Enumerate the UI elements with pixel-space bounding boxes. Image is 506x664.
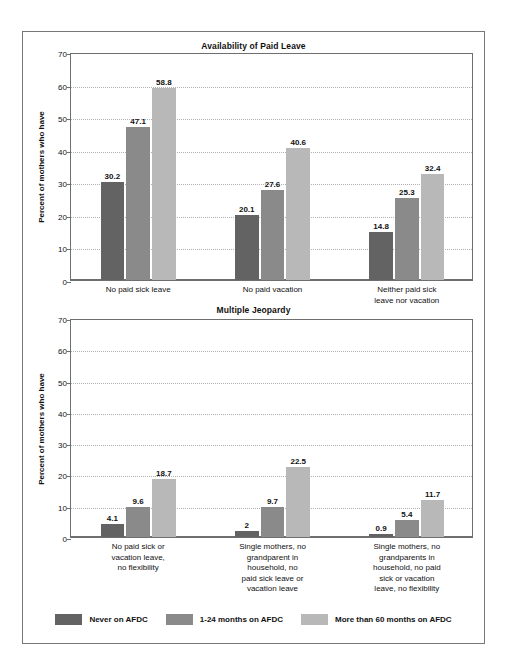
- y-axis-tick-label: 40: [58, 147, 67, 156]
- plot-area-top: 010203040506070No paid sick leave30.247.…: [70, 53, 473, 281]
- legend-item[interactable]: Never on AFDC: [55, 614, 147, 625]
- bar[interactable]: 47.1: [126, 127, 150, 280]
- bar[interactable]: 20.1: [235, 215, 259, 280]
- x-axis-category-line: paid sick leave or: [205, 574, 339, 585]
- bar-value-label: 58.8: [156, 78, 172, 87]
- x-axis-category-line: Single mothers, no: [340, 542, 474, 553]
- bar-group: 29.722.5: [205, 320, 339, 537]
- y-axis-tick-label: 20: [58, 212, 67, 221]
- bar[interactable]: 22.5: [286, 467, 310, 537]
- bar-group: 30.247.158.8: [71, 54, 205, 280]
- x-axis-category-line: Single mothers, no: [205, 542, 339, 553]
- x-axis-category-label: No paid sick orvacation leave,no flexibi…: [71, 542, 205, 574]
- bar-value-label: 47.1: [130, 117, 146, 126]
- x-axis-category-line: household, no paid: [340, 563, 474, 574]
- x-axis-category-line: no flexibility: [71, 563, 205, 574]
- x-axis-category-line: Neither paid sick: [340, 285, 474, 296]
- x-axis-category-label: No paid sick leave: [71, 285, 205, 296]
- bar-value-label: 9.7: [267, 497, 278, 506]
- y-axis-tick-label: 0: [63, 535, 67, 544]
- bar-value-label: 5.4: [401, 510, 412, 519]
- bar[interactable]: 4.1: [101, 524, 125, 537]
- bar-value-label: 30.2: [105, 172, 121, 181]
- y-axis-tick-label: 30: [58, 441, 67, 450]
- x-axis-category-line: No paid sick or: [71, 542, 205, 553]
- x-axis-category-line: vacation leave,: [71, 553, 205, 564]
- y-axis-title-top: Percent of mothers who have: [37, 111, 46, 223]
- y-axis-tick-label: 60: [58, 82, 67, 91]
- legend-label: More than 60 months on AFDC: [335, 615, 452, 624]
- y-axis-tick-label: 60: [58, 347, 67, 356]
- bar-value-label: 11.7: [425, 490, 440, 499]
- bar-value-label: 0.9: [376, 524, 387, 533]
- chart-legend: Never on AFDC1-24 months on AFDCMore tha…: [37, 608, 470, 630]
- y-axis-title-bottom: Percent of mothers who have: [37, 373, 46, 485]
- legend-swatch-icon: [301, 614, 328, 625]
- y-axis-tick-label: 10: [58, 245, 67, 254]
- chart-panel-multiple-jeopardy: Multiple Jeopardy Percent of mothers who…: [23, 300, 484, 620]
- legend-item[interactable]: 1-24 months on AFDC: [166, 614, 283, 625]
- y-axis-tick-label: 70: [58, 50, 67, 59]
- bar-value-label: 22.5: [290, 457, 306, 466]
- x-axis-category-line: sick or vacation: [340, 574, 474, 585]
- chart-panel-availability-of-paid-leave: Availability of Paid Leave Percent of mo…: [23, 32, 484, 322]
- x-axis-category-label: No paid vacation: [205, 285, 339, 296]
- bar-value-label: 20.1: [239, 205, 255, 214]
- bar[interactable]: 0.9: [369, 534, 393, 537]
- bar[interactable]: 25.3: [395, 198, 419, 280]
- bar[interactable]: 9.6: [126, 507, 150, 537]
- plot-area-bottom: 010203040506070No paid sick orvacation l…: [70, 319, 473, 538]
- bar-value-label: 40.6: [290, 138, 306, 147]
- y-axis-tick-label: 50: [58, 115, 67, 124]
- x-axis-category-line: grandparents in: [340, 553, 474, 564]
- bar-group: 14.825.332.4: [340, 54, 474, 280]
- bar-value-label: 9.6: [133, 497, 144, 506]
- x-axis-category-line: leave, no flexibility: [340, 584, 474, 595]
- bar-group: 0.95.411.7: [340, 320, 474, 537]
- bar-group: 20.127.640.6: [205, 54, 339, 280]
- bar[interactable]: 5.4: [395, 520, 419, 537]
- bar-value-label: 14.8: [373, 222, 389, 231]
- bar[interactable]: 18.7: [152, 479, 176, 538]
- x-axis-category-line: vacation leave: [205, 584, 339, 595]
- bar-value-label: 25.3: [399, 188, 415, 197]
- legend-swatch-icon: [166, 614, 193, 625]
- bar[interactable]: 9.7: [261, 507, 285, 537]
- legend-swatch-icon: [55, 614, 82, 625]
- bar-value-label: 18.7: [156, 469, 172, 478]
- y-axis-tick-label: 20: [58, 472, 67, 481]
- bar[interactable]: 40.6: [286, 148, 310, 280]
- bar-value-label: 32.4: [425, 164, 441, 173]
- y-axis-tick-mark: [67, 282, 71, 283]
- y-axis-tick-label: 30: [58, 180, 67, 189]
- bar[interactable]: 30.2: [101, 182, 125, 280]
- bar[interactable]: 14.8: [369, 232, 393, 280]
- x-axis-category-label: Single mothers, nograndparents inhouseho…: [340, 542, 474, 595]
- bar-value-label: 2: [245, 521, 249, 530]
- bar-value-label: 27.6: [265, 180, 281, 189]
- legend-item[interactable]: More than 60 months on AFDC: [301, 614, 452, 625]
- chart-title-top: Availability of Paid Leave: [23, 41, 484, 51]
- y-axis-tick-label: 40: [58, 409, 67, 418]
- x-axis-category-label: Single mothers, nograndparent inhousehol…: [205, 542, 339, 595]
- y-axis-tick-mark: [67, 539, 71, 540]
- y-axis-tick-label: 0: [63, 278, 67, 287]
- y-axis-tick-label: 70: [58, 316, 67, 325]
- y-axis-tick-label: 50: [58, 378, 67, 387]
- x-axis-category-line: grandparent in: [205, 553, 339, 564]
- bar-group: 4.19.618.7: [71, 320, 205, 537]
- x-axis-category-line: No paid vacation: [205, 285, 339, 296]
- bar-value-label: 4.1: [107, 514, 118, 523]
- chart-title-bottom: Multiple Jeopardy: [23, 305, 484, 315]
- x-axis-category-line: household, no: [205, 563, 339, 574]
- bar[interactable]: 58.8: [152, 88, 176, 280]
- bar[interactable]: 11.7: [421, 500, 445, 537]
- legend-label: Never on AFDC: [89, 615, 147, 624]
- bar[interactable]: 2: [235, 531, 259, 537]
- figure-container: Availability of Paid Leave Percent of mo…: [22, 31, 485, 644]
- x-axis-category-line: No paid sick leave: [71, 285, 205, 296]
- legend-label: 1-24 months on AFDC: [200, 615, 283, 624]
- bar[interactable]: 27.6: [261, 190, 285, 280]
- bar[interactable]: 32.4: [421, 174, 445, 280]
- y-axis-tick-label: 10: [58, 503, 67, 512]
